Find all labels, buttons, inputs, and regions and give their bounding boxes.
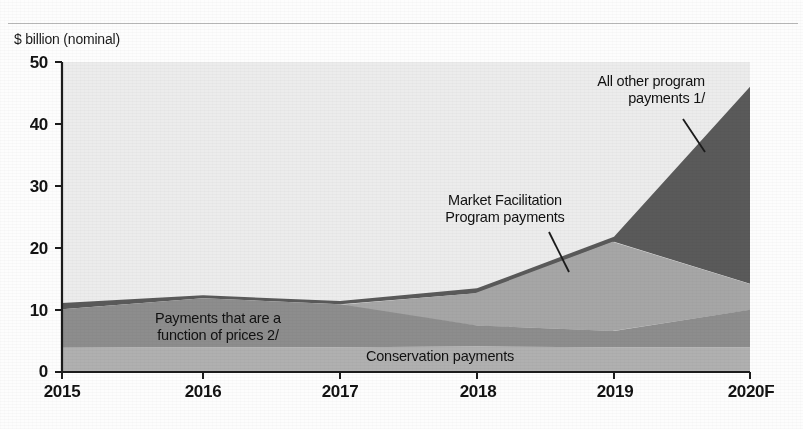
annotation-payments-function-of-prices: Payments that are a function of prices 2… [123,310,313,344]
annotation-market-facilitation-program-payments: Market Facilitation Program payments [415,192,595,226]
annotation-conservation-payments: Conservation payments [330,348,550,365]
annotation-all-other-program-payments: All other program payments 1/ [490,73,705,107]
chart-figure: $ billion (nominal) 50 40 30 20 10 0 201… [0,0,803,429]
